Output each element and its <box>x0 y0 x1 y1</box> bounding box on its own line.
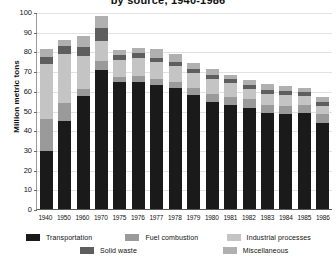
bar-segment-fuel-combustion[interactable] <box>206 94 219 102</box>
bar-segment-miscellaneous[interactable] <box>77 36 90 47</box>
bar-column-1982[interactable] <box>240 13 258 209</box>
bar-segment-transportation[interactable] <box>77 96 90 209</box>
stacked-bar[interactable] <box>243 80 256 209</box>
bar-column-1950[interactable] <box>55 13 73 209</box>
bar-segment-fuel-combustion[interactable] <box>58 103 71 122</box>
bar-segment-industrial-processes[interactable] <box>95 41 108 62</box>
bar-segment-industrial-processes[interactable] <box>224 83 237 97</box>
bar-series-group <box>37 13 332 209</box>
stacked-bar[interactable] <box>113 50 126 209</box>
bar-segment-solid-waste[interactable] <box>95 28 108 41</box>
legend-item-transportation[interactable]: Transportation <box>26 234 125 241</box>
stacked-bar[interactable] <box>224 75 237 209</box>
bar-segment-industrial-processes[interactable] <box>206 79 219 94</box>
bar-segment-fuel-combustion[interactable] <box>279 106 292 115</box>
bar-segment-solid-waste[interactable] <box>77 47 90 57</box>
bar-segment-fuel-combustion[interactable] <box>77 89 90 96</box>
bar-segment-industrial-processes[interactable] <box>58 54 71 102</box>
bar-segment-industrial-processes[interactable] <box>40 64 53 119</box>
bar-segment-solid-waste[interactable] <box>40 57 53 64</box>
bar-segment-transportation[interactable] <box>279 114 292 209</box>
legend-item-industrial-processes[interactable]: Industrial processes <box>227 234 326 241</box>
bar-segment-transportation[interactable] <box>132 82 145 209</box>
bar-segment-industrial-processes[interactable] <box>316 106 329 115</box>
bar-segment-transportation[interactable] <box>298 113 311 209</box>
bar-segment-miscellaneous[interactable] <box>95 16 108 28</box>
bar-segment-transportation[interactable] <box>224 105 237 209</box>
stacked-bar[interactable] <box>206 69 219 209</box>
x-tick-label-1980: 1980 <box>203 214 222 224</box>
bar-segment-transportation[interactable] <box>150 85 163 209</box>
bar-column-1970[interactable] <box>92 13 110 209</box>
bar-segment-industrial-processes[interactable] <box>132 58 145 76</box>
stacked-bar[interactable] <box>316 97 329 209</box>
legend-swatch-icon <box>125 234 139 241</box>
bar-column-1983[interactable] <box>258 13 276 209</box>
bar-segment-fuel-combustion[interactable] <box>316 114 329 123</box>
bar-segment-transportation[interactable] <box>243 108 256 209</box>
bar-segment-industrial-processes[interactable] <box>113 60 126 77</box>
legend-swatch-icon <box>26 234 40 241</box>
legend-item-solid-waste[interactable]: Solid waste <box>80 247 223 254</box>
stacked-bar[interactable] <box>187 63 200 209</box>
x-tick-label-1940: 1940 <box>36 214 55 224</box>
stacked-bar[interactable] <box>261 84 274 209</box>
bar-segment-transportation[interactable] <box>113 82 126 209</box>
stacked-bar[interactable] <box>298 88 311 209</box>
bar-segment-miscellaneous[interactable] <box>150 49 163 58</box>
stacked-bar[interactable] <box>169 54 182 209</box>
bar-segment-industrial-processes[interactable] <box>279 95 292 106</box>
bar-segment-fuel-combustion[interactable] <box>298 105 311 114</box>
stacked-bar[interactable] <box>150 49 163 209</box>
x-tick-label-1981: 1981 <box>221 214 240 224</box>
bar-segment-fuel-combustion[interactable] <box>95 61 108 70</box>
bar-segment-industrial-processes[interactable] <box>261 94 274 105</box>
bar-column-1976[interactable] <box>129 13 147 209</box>
bar-segment-transportation[interactable] <box>169 88 182 209</box>
bar-column-1981[interactable] <box>221 13 239 209</box>
stacked-bar[interactable] <box>132 48 145 209</box>
bar-column-1980[interactable] <box>203 13 221 209</box>
bar-segment-fuel-combustion[interactable] <box>187 88 200 95</box>
bar-column-1940[interactable] <box>37 13 55 209</box>
chart-legend: TransportationFuel combustionIndustrial … <box>26 232 326 257</box>
legend-label: Industrial processes <box>247 234 311 241</box>
bar-column-1986[interactable] <box>314 13 332 209</box>
bar-column-1985[interactable] <box>295 13 313 209</box>
bar-segment-industrial-processes[interactable] <box>169 66 182 82</box>
bar-segment-transportation[interactable] <box>316 123 329 209</box>
x-tick-label-1970: 1970 <box>92 214 111 224</box>
bar-segment-industrial-processes[interactable] <box>243 89 256 99</box>
bar-segment-industrial-processes[interactable] <box>77 56 90 89</box>
stacked-bar[interactable] <box>279 86 292 209</box>
stacked-bar[interactable] <box>77 36 90 209</box>
stacked-bar[interactable] <box>95 16 108 209</box>
bar-segment-miscellaneous[interactable] <box>40 49 53 57</box>
bar-column-1977[interactable] <box>148 13 166 209</box>
bar-segment-transportation[interactable] <box>40 151 53 209</box>
stacked-bar[interactable] <box>58 40 71 209</box>
bar-segment-fuel-combustion[interactable] <box>224 97 237 105</box>
bar-segment-transportation[interactable] <box>261 113 274 209</box>
bar-segment-transportation[interactable] <box>187 95 200 209</box>
bar-column-1975[interactable] <box>111 13 129 209</box>
x-tick-label-1976: 1976 <box>129 214 148 224</box>
bar-segment-transportation[interactable] <box>58 121 71 209</box>
bar-segment-industrial-processes[interactable] <box>150 62 163 79</box>
bar-segment-miscellaneous[interactable] <box>169 54 182 62</box>
bar-segment-fuel-combustion[interactable] <box>261 105 274 114</box>
bar-segment-fuel-combustion[interactable] <box>40 119 53 151</box>
legend-item-miscellaneous[interactable]: Miscellaneous <box>223 247 326 254</box>
legend-item-fuel-combustion[interactable]: Fuel combustion <box>125 234 226 241</box>
bar-segment-transportation[interactable] <box>95 70 108 209</box>
bar-segment-transportation[interactable] <box>206 102 219 209</box>
stacked-bar[interactable] <box>40 49 53 209</box>
bar-segment-solid-waste[interactable] <box>58 46 71 55</box>
bar-column-1984[interactable] <box>277 13 295 209</box>
bar-segment-industrial-processes[interactable] <box>187 73 200 88</box>
bar-segment-industrial-processes[interactable] <box>298 96 311 105</box>
bar-column-1979[interactable] <box>185 13 203 209</box>
bar-column-1978[interactable] <box>166 13 184 209</box>
bar-column-1960[interactable] <box>74 13 92 209</box>
bar-segment-fuel-combustion[interactable] <box>243 99 256 108</box>
